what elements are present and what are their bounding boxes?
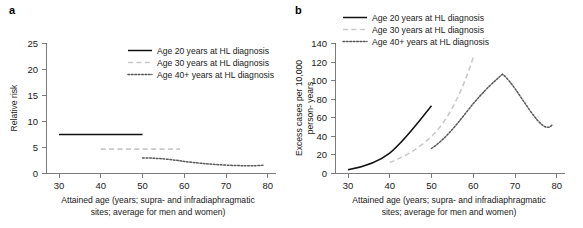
panel-a-ytick-15: 15 [27, 90, 38, 101]
panel-b-x-axis-title-line1: Attained age (years; supra- and infradia… [352, 195, 546, 205]
panel-b-xtick-30: 30 [343, 180, 354, 191]
panel-b-series-age20 [348, 106, 432, 170]
panel-b-xtick-40: 40 [384, 180, 395, 191]
panel-a-series-age40plus [143, 158, 264, 166]
panel-b-x-axis-title-line2: sites; average for men and women) [382, 207, 517, 217]
panel-a-xtick-70: 70 [221, 180, 232, 191]
panel-b-xtick-80: 80 [551, 180, 562, 191]
panel-b-legend-label-age20: Age 20 years at HL diagnosis [372, 13, 484, 23]
panel-a-xtick-50: 50 [137, 180, 148, 191]
panel-b-ytick-0: 0 [322, 168, 327, 179]
panel-a-ytick-25: 25 [27, 38, 38, 49]
panel-a-legend-label-age30: Age 30 years at HL diagnosis [157, 58, 269, 68]
panel-a-plot: 25 20 15 10 5 0 30 40 50 60 70 80 [0, 0, 292, 228]
panel-a-xtick-60: 60 [179, 180, 190, 191]
panel-b: b 140 120 100 80 60 40 20 [291, 0, 583, 228]
panel-a-x-axis-title-line1: Attained age (years; supra- and infradia… [61, 195, 255, 205]
panel-a-legend-label-age40plus: Age 40+ years at HL diagnosis [157, 70, 274, 80]
panel-a-x-ticks: 30 40 50 60 70 80 [54, 174, 273, 192]
panel-a-y-ticks: 25 20 15 10 5 0 [27, 38, 46, 179]
panel-a-xtick-30: 30 [54, 180, 65, 191]
panel-a-xtick-80: 80 [262, 180, 273, 191]
panel-b-ytick-120: 120 [311, 57, 327, 68]
panel-b-xtick-70: 70 [510, 180, 521, 191]
panel-a-label: a [9, 4, 15, 16]
panel-b-xtick-50: 50 [426, 180, 437, 191]
panel-b-ytick-20: 20 [316, 149, 327, 160]
panel-a-legend-label-age20: Age 20 years at HL diagnosis [157, 46, 269, 56]
panel-b-ytick-80: 80 [316, 94, 327, 105]
panel-b-series-age30 [390, 57, 474, 162]
panel-a: a 25 20 15 10 5 0 [0, 0, 292, 228]
panel-b-xtick-60: 60 [468, 180, 479, 191]
panel-a-xtick-40: 40 [95, 180, 106, 191]
panel-a-y-axis-title: Relative risk [9, 84, 19, 132]
panel-b-series-age40plus [432, 74, 553, 148]
panel-b-legend: Age 20 years at HL diagnosis Age 30 year… [343, 13, 489, 47]
panel-b-ytick-40: 40 [316, 131, 327, 142]
panel-a-x-axis-title-line2: sites; average for men and women) [91, 207, 226, 217]
panel-b-legend-label-age40plus: Age 40+ years at HL diagnosis [372, 37, 489, 47]
panel-b-y-axis-title-line2: person- years [305, 82, 315, 135]
panel-b-y-axis-title-line1: Excess cases per 10,000 [294, 60, 304, 156]
panel-b-plot: 140 120 100 80 60 40 20 0 30 40 50 6 [291, 0, 583, 228]
panel-a-legend: Age 20 years at HL diagnosis Age 30 year… [128, 46, 274, 80]
panel-b-x-ticks: 30 40 50 60 70 80 [343, 174, 562, 192]
panel-a-ytick-0: 0 [33, 168, 38, 179]
panel-b-ytick-60: 60 [316, 112, 327, 123]
panel-b-legend-label-age30: Age 30 years at HL diagnosis [372, 25, 484, 35]
panel-b-label: b [295, 4, 302, 16]
panel-a-ytick-5: 5 [33, 142, 38, 153]
figure-container: a 25 20 15 10 5 0 [0, 0, 583, 228]
panel-b-ytick-140: 140 [311, 38, 327, 49]
panel-a-ytick-10: 10 [27, 116, 38, 127]
panel-a-ytick-20: 20 [27, 64, 38, 75]
